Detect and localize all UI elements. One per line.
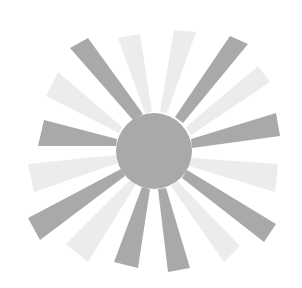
- sun-illustration: Sun illustration: [0, 0, 302, 288]
- sun-icon: [0, 0, 302, 288]
- sun-disc: [116, 113, 192, 189]
